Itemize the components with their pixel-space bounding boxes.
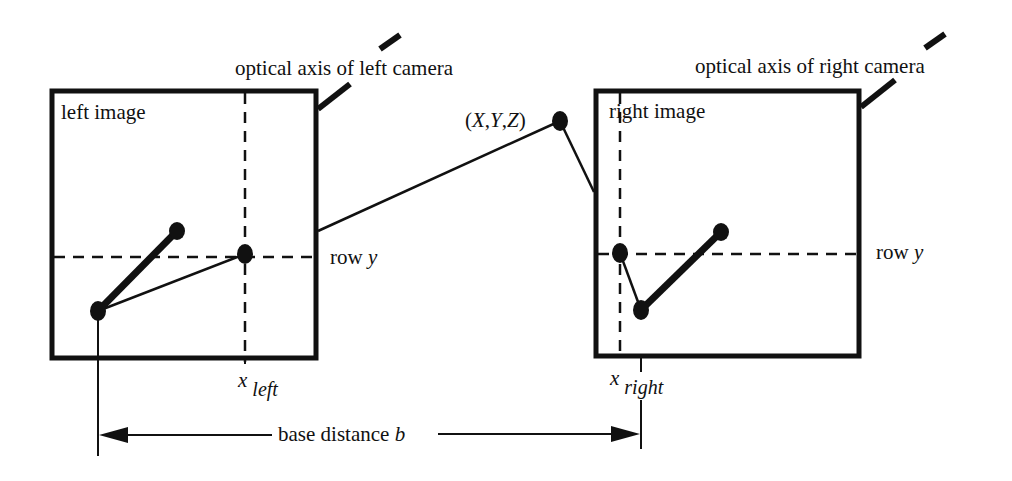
world-point-label: (X,Y,Z) bbox=[465, 110, 526, 131]
arrowhead-left-icon bbox=[99, 427, 128, 443]
row-variable: y bbox=[914, 240, 923, 264]
left-optical-axis-label: optical axis of left camera bbox=[235, 58, 453, 79]
baseline-variable: b bbox=[395, 422, 406, 446]
x-variable: x bbox=[238, 368, 247, 392]
x-variable: x bbox=[610, 366, 619, 390]
right-object-segment bbox=[641, 232, 721, 310]
right-point-center bbox=[612, 243, 628, 263]
left-image-frame bbox=[52, 91, 316, 358]
row-text: row bbox=[330, 245, 368, 269]
left-object-segment bbox=[98, 231, 177, 311]
baseline-text: base distance bbox=[278, 422, 395, 446]
world-point bbox=[552, 111, 568, 131]
row-variable: y bbox=[368, 245, 377, 269]
left-row-label: row y bbox=[330, 247, 377, 268]
x-subscript: left bbox=[252, 378, 278, 400]
x-subscript: right bbox=[624, 376, 663, 398]
arrowhead-right-icon bbox=[611, 426, 640, 442]
ray-world-to-right bbox=[560, 121, 594, 192]
left-point-top bbox=[169, 222, 185, 240]
left-optical-axis-lower bbox=[318, 84, 350, 109]
x-left-label: xleft bbox=[238, 370, 278, 391]
right-optical-axis-upper bbox=[925, 34, 945, 48]
baseline-label: base distance b bbox=[278, 424, 405, 445]
left-point-center bbox=[237, 244, 253, 264]
right-row-label: row y bbox=[876, 242, 923, 263]
right-optical-axis-label: optical axis of right camera bbox=[695, 56, 925, 77]
ray-left-to-world bbox=[318, 121, 560, 231]
left-image-label: left image bbox=[61, 102, 146, 123]
left-optical-axis-upper bbox=[380, 35, 400, 49]
row-text: row bbox=[876, 240, 914, 264]
right-point-base bbox=[633, 300, 649, 320]
right-point-top bbox=[713, 223, 729, 241]
right-optical-axis-lower bbox=[861, 80, 895, 107]
left-projection-line bbox=[98, 254, 245, 311]
x-right-label: xright bbox=[610, 368, 663, 389]
right-image-label: right image bbox=[609, 101, 705, 122]
